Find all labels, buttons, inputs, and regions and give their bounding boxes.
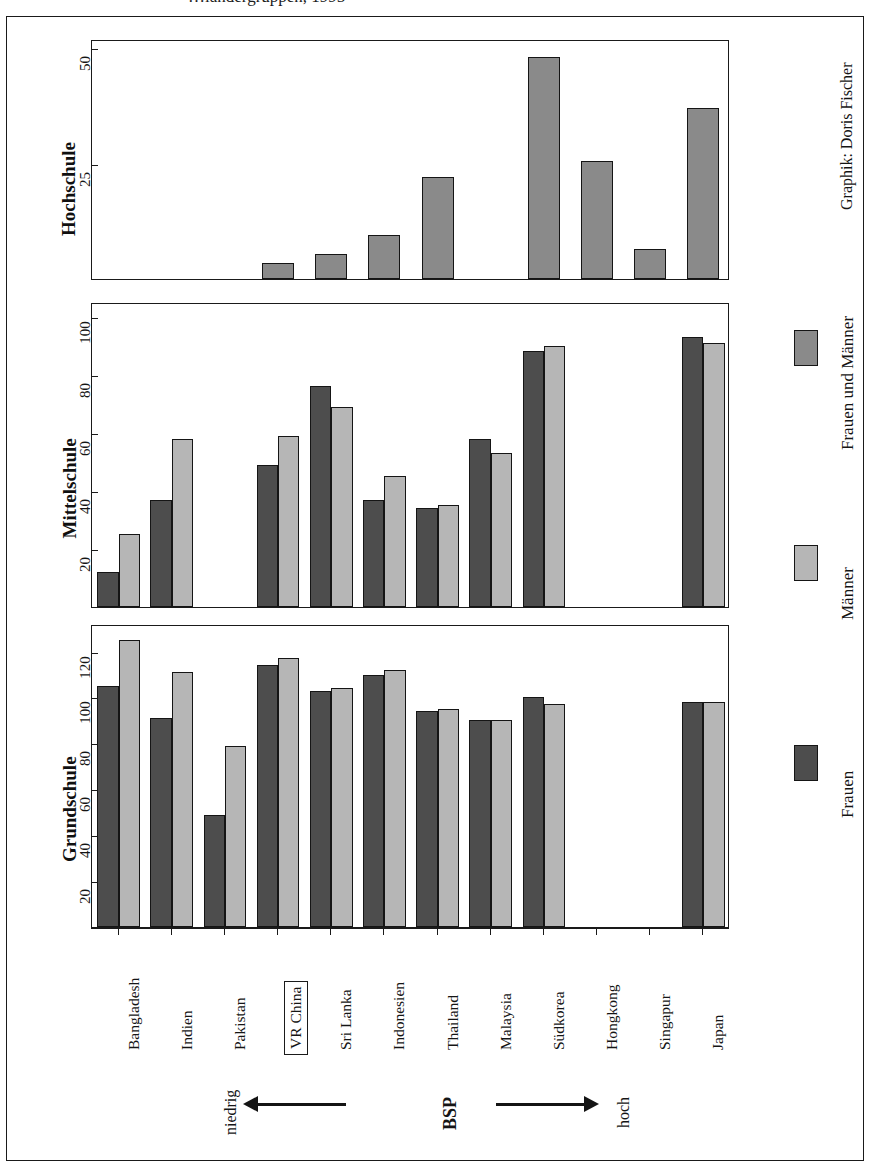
legend-label-1: Männer xyxy=(838,567,858,620)
bar xyxy=(469,720,490,927)
bar xyxy=(687,108,719,279)
bar-group xyxy=(305,41,358,279)
bar xyxy=(278,436,299,607)
bar-group xyxy=(411,304,464,607)
bar-group xyxy=(677,41,730,279)
plot-area-hochschule xyxy=(92,41,728,279)
bar-group xyxy=(358,41,411,279)
bar-group xyxy=(198,626,251,927)
x-axis-label-hongkong: Hongkong xyxy=(603,985,621,1050)
y-tick-label: 20 xyxy=(77,549,94,579)
y-tick-label: 120 xyxy=(77,652,94,682)
bar xyxy=(544,346,565,607)
bar xyxy=(119,534,140,607)
x-axis-line xyxy=(91,928,729,929)
arrow-right-line xyxy=(496,1103,584,1106)
annotation-niedrig: niedrig xyxy=(222,1090,240,1135)
bar-group xyxy=(411,41,464,279)
bar xyxy=(544,704,565,927)
bar xyxy=(363,500,384,607)
bar xyxy=(310,691,331,927)
x-axis-label-bangladesh: Bangladesh xyxy=(125,978,143,1050)
y-tick-label: 80 xyxy=(77,375,94,405)
bar xyxy=(150,500,171,607)
bar xyxy=(384,476,405,607)
bar-group xyxy=(145,304,198,607)
bar xyxy=(331,688,352,927)
bar xyxy=(469,439,490,607)
x-axis-label-malaysia: Malaysia xyxy=(497,993,515,1050)
x-tick xyxy=(330,928,331,935)
bar xyxy=(682,702,703,927)
x-axis-label-japan: Japan xyxy=(709,1015,727,1050)
bar xyxy=(172,439,193,607)
bar-group xyxy=(92,626,145,927)
bar xyxy=(225,746,246,927)
bar-group xyxy=(517,626,570,927)
bar xyxy=(581,161,613,279)
x-axis-label-südkorea: Südkorea xyxy=(550,991,568,1050)
x-tick xyxy=(437,928,438,935)
plot-area-mittelschule xyxy=(92,304,728,607)
bar xyxy=(682,337,703,607)
bar-group xyxy=(677,626,730,927)
bar-group xyxy=(358,304,411,607)
bar-group xyxy=(92,304,145,607)
bar xyxy=(331,407,352,607)
bar-group xyxy=(252,626,305,927)
y-tick-label: 60 xyxy=(77,790,94,820)
panel-label-hochschule: Hochschule xyxy=(58,86,80,236)
y-tick-label: 50 xyxy=(77,49,94,79)
y-tick-label: 100 xyxy=(77,317,94,347)
arrow-left-icon xyxy=(243,1096,258,1112)
bar xyxy=(491,453,512,607)
bar-group xyxy=(358,626,411,927)
annotation-bsp: BSP xyxy=(440,1097,461,1130)
bar xyxy=(257,665,278,927)
bar xyxy=(257,465,278,607)
bar xyxy=(703,702,724,927)
bar-group xyxy=(624,41,677,279)
arrow-right-icon xyxy=(584,1096,599,1112)
y-tick-label: 80 xyxy=(77,744,94,774)
bar xyxy=(416,711,437,927)
x-axis-label-vr-china: VR China xyxy=(284,981,308,1055)
x-tick xyxy=(543,928,544,935)
panel-mittelschule xyxy=(91,303,729,608)
x-tick xyxy=(171,928,172,935)
bar-group xyxy=(252,41,305,279)
bar xyxy=(150,718,171,927)
bar-group xyxy=(145,626,198,927)
chart-stage: Hochschule Mittelschule Grundschule Bang… xyxy=(0,0,872,1171)
bar xyxy=(703,343,724,607)
x-axis-label-thailand: Thailand xyxy=(444,995,462,1050)
bar xyxy=(528,57,560,279)
y-tick-label: 25 xyxy=(77,164,94,194)
y-tick-label: 20 xyxy=(77,882,94,912)
x-tick xyxy=(490,928,491,935)
bar xyxy=(278,658,299,927)
x-tick xyxy=(277,928,278,935)
y-tick-label: 100 xyxy=(77,698,94,728)
bar xyxy=(523,697,544,927)
bar xyxy=(368,235,400,279)
bar xyxy=(262,263,294,279)
bar-group xyxy=(464,304,517,607)
bar xyxy=(204,815,225,927)
bar xyxy=(416,508,437,607)
legend-swatch-0 xyxy=(794,330,818,366)
arrow-left-line xyxy=(258,1103,346,1106)
x-axis-label-indien: Indien xyxy=(178,1010,196,1050)
y-tick-label: 60 xyxy=(77,433,94,463)
bar xyxy=(97,686,118,927)
x-tick xyxy=(649,928,650,935)
plot-area-grundschule xyxy=(92,626,728,927)
bar-group xyxy=(411,626,464,927)
x-tick xyxy=(383,928,384,935)
bar xyxy=(438,709,459,927)
legend-swatch-1 xyxy=(794,545,818,581)
bar xyxy=(363,675,384,928)
bar-group xyxy=(305,626,358,927)
x-tick xyxy=(596,928,597,935)
bar xyxy=(310,386,331,607)
